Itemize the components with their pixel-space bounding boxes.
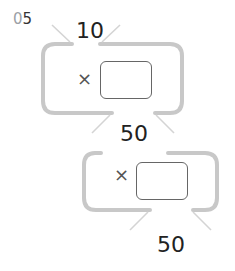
problem-1-bottom-value: 50 [120,123,148,145]
problem-1-answer-box[interactable] [100,61,152,99]
frame-2-rays [130,212,211,230]
problem-1-operator: × [77,70,92,88]
question-number-digit: 5 [23,10,33,28]
problem-1-top-value: 10 [76,20,104,42]
problem-2-operator: × [114,166,129,184]
question-number-prefix: 0 [13,10,23,28]
problem-2-answer-box[interactable] [136,162,188,200]
diagram-frames [0,0,235,271]
problem-2-bottom-value: 50 [157,234,185,256]
question-number: 05 [13,12,32,27]
